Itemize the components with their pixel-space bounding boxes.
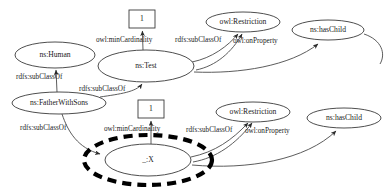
node-ns-human[interactable]: ns:Human <box>15 42 95 68</box>
node-label-owl-restriction-bottom: owl:Restriction <box>230 107 277 116</box>
node-ns-haschild-top[interactable]: ns:hasChild <box>292 20 364 40</box>
edge-label-onproperty-bottom: owl:onProperty <box>245 127 290 135</box>
node-literal-one-top[interactable]: 1 <box>129 10 155 28</box>
node-blank-x[interactable]: _:X <box>105 144 191 176</box>
diagram-canvas: 1 ns:Human ns:Test owl:Restriction ns:ha… <box>0 0 392 190</box>
node-owl-restriction-bottom[interactable]: owl:Restriction <box>216 102 290 122</box>
node-label-ns-haschild-top: ns:hasChild <box>310 25 346 34</box>
edge-test-haschild <box>194 44 318 72</box>
edge-label-subclassof-father-blank: rdfs:subClassOf <box>20 124 67 132</box>
node-literal-one-bottom[interactable]: 1 <box>138 100 164 118</box>
node-ns-fatherwithsons[interactable]: ns:FatherWithSons <box>12 92 106 114</box>
edge-label-min-cardinality-top: owl:minCardinality <box>96 36 153 44</box>
edges-layer <box>56 31 383 166</box>
node-owl-restriction-top[interactable]: owl:Restriction <box>206 12 280 32</box>
node-label-owl-restriction-top: owl:Restriction <box>220 17 267 26</box>
node-label-literal-one-top: 1 <box>140 14 144 23</box>
edge-label-subclassof-blank-restriction: rdfs:subClassOf <box>186 126 233 134</box>
node-label-ns-test: ns:Test <box>135 61 157 70</box>
node-ns-haschild-bottom[interactable]: ns:hasChild <box>307 108 381 128</box>
edge-right-connector <box>364 34 383 64</box>
node-label-blank-x: _:X <box>141 155 154 164</box>
edge-label-subclassof-test-restriction: rdfs:subClassOf <box>175 36 222 44</box>
rdf-graph: 1 ns:Human ns:Test owl:Restriction ns:ha… <box>0 0 392 190</box>
node-label-ns-haschild-bottom: ns:hasChild <box>326 113 362 122</box>
edge-subclassof-father-blank <box>62 114 100 154</box>
node-label-literal-one-bottom: 1 <box>149 104 153 113</box>
node-label-ns-human: ns:Human <box>39 50 70 59</box>
edge-label-onproperty-top: owl:onProperty <box>233 37 278 45</box>
node-label-ns-fatherwithsons: ns:FatherWithSons <box>30 98 88 107</box>
edge-label-min-cardinality-bottom: owl:minCardinality <box>104 125 161 133</box>
edge-label-subclassof-father-test: rdfs:subClassOf <box>79 85 126 93</box>
node-ns-test[interactable]: ns:Test <box>98 50 194 82</box>
edge-label-subclassof-father-human: rdfs:subClassOf <box>16 73 63 81</box>
